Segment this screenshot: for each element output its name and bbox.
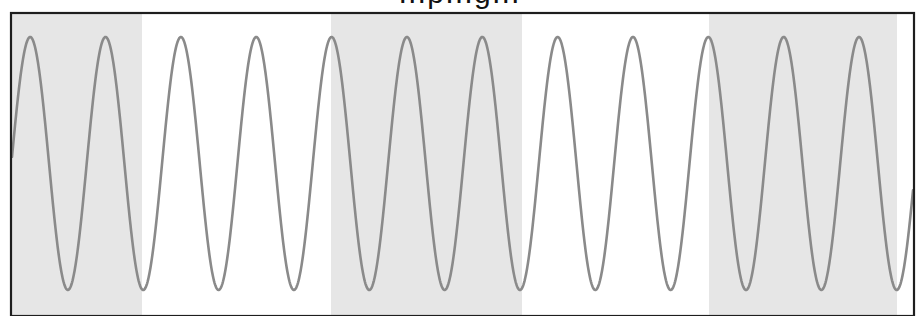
shaded-region-1 xyxy=(12,13,142,316)
sine-wave-chart xyxy=(0,0,918,316)
